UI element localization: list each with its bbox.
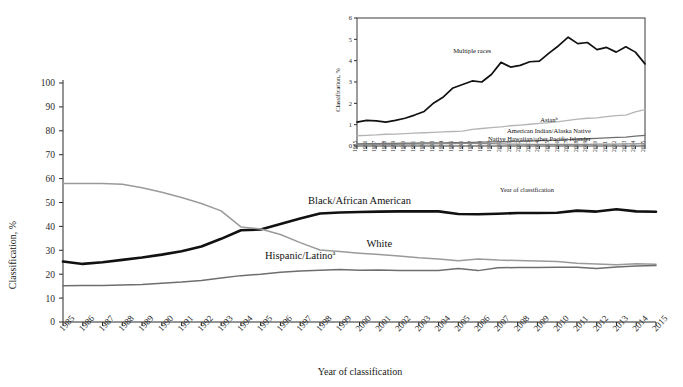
y-tick-label: 70 xyxy=(46,150,56,160)
x-tick-label: 2002 xyxy=(393,313,412,333)
inset-series-line-asian xyxy=(357,110,645,136)
series-label-superscript: a xyxy=(333,249,336,256)
inset-series-labels: Multiple racesAsianbAmerican Indian/Alas… xyxy=(453,47,591,142)
y-tick-label: 20 xyxy=(46,270,56,280)
series-label-white: White xyxy=(366,238,392,249)
x-tick-label: 2006 xyxy=(472,313,492,333)
x-tick-label: 2010 xyxy=(551,313,571,333)
inset-x-axis-title: Year of classification xyxy=(500,186,555,193)
x-tick-label: 2004 xyxy=(433,313,453,333)
inset-chart: 0123456 19851986198719881989199019911992… xyxy=(332,2,680,198)
inset-series-label-american-indian-alaska-native: American Indian/Alaska Native xyxy=(507,127,591,134)
inset-series-lines xyxy=(357,37,645,145)
inset-y-tick-label: 1 xyxy=(349,121,352,128)
x-tick-label: 2009 xyxy=(531,313,551,333)
y-tick-label: 10 xyxy=(46,294,56,304)
y-tick-label: 100 xyxy=(41,78,56,88)
x-tick-label: 2000 xyxy=(354,313,374,333)
x-tick-label: 2013 xyxy=(611,313,631,333)
x-tick-label: 1986 xyxy=(77,313,97,333)
x-tick-label: 2011 xyxy=(571,314,590,334)
x-tick-label: 1998 xyxy=(314,313,334,333)
x-tick-label: 1985 xyxy=(57,313,77,333)
x-tick-label: 2003 xyxy=(413,313,433,333)
main-x-axis-title: Year of classification xyxy=(318,366,403,377)
inset-y-tick-label: 2 xyxy=(349,100,352,107)
x-tick-label: 1988 xyxy=(116,313,136,333)
x-tick-label: 1990 xyxy=(156,313,176,333)
x-tick-label: 1987 xyxy=(97,313,117,333)
inset-y-axis-ticks: 0123456 xyxy=(349,14,357,149)
inset-y-tick-label: 5 xyxy=(349,36,352,43)
x-tick-label: 1999 xyxy=(334,313,354,333)
x-tick-label: 1993 xyxy=(215,313,235,333)
main-x-axis-ticks: 1985198619871988198919901991199219931994… xyxy=(57,313,670,333)
inset-chart-svg: 0123456 19851986198719881989199019911992… xyxy=(332,2,680,198)
x-tick-label: 1994 xyxy=(235,313,255,333)
series-line-black-african-american xyxy=(63,209,656,264)
y-tick-label: 40 xyxy=(46,222,56,232)
x-tick-label: 1989 xyxy=(136,313,156,333)
x-tick-label: 1992 xyxy=(195,313,214,333)
x-tick-label: 1995 xyxy=(255,313,275,333)
inset-y-tick-label: 6 xyxy=(349,14,353,21)
x-tick-label: 2014 xyxy=(630,313,650,333)
inset-series-line-multiple-races xyxy=(357,37,645,122)
y-tick-label: 90 xyxy=(46,102,56,112)
x-tick-label: 2015 xyxy=(650,313,670,333)
y-tick-label: 80 xyxy=(46,126,56,136)
inset-y-tick-label: 3 xyxy=(349,78,352,85)
figure-root: 0102030405060708090100 19851986198719881… xyxy=(0,0,683,387)
inset-series-label-native-hawaiian-other-pacific-islander: Native Hawaiian/other Pacific Islander xyxy=(488,135,592,142)
inset-y-tick-label: 4 xyxy=(349,57,353,64)
y-tick-label: 30 xyxy=(46,246,56,256)
x-tick-label: 2008 xyxy=(512,313,532,333)
y-tick-label: 50 xyxy=(46,198,56,208)
x-tick-label: 1991 xyxy=(176,313,195,333)
series-line-hispanic-latino xyxy=(63,266,656,286)
x-tick-label: 2005 xyxy=(452,313,472,333)
y-tick-label: 0 xyxy=(50,317,55,327)
inset-series-label-multiple-races: Multiple races xyxy=(453,47,491,54)
x-tick-label: 2012 xyxy=(591,313,610,333)
main-y-axis-title: Classification, % xyxy=(7,221,18,289)
x-tick-label: 1997 xyxy=(294,313,314,333)
main-y-axis-ticks: 0102030405060708090100 xyxy=(41,78,63,327)
inset-series-label-superscript: b xyxy=(556,116,559,121)
x-tick-label: 2001 xyxy=(373,313,392,333)
y-tick-label: 60 xyxy=(46,174,56,184)
x-tick-label: 2007 xyxy=(492,313,512,333)
inset-y-axis-title: Classification, % xyxy=(334,67,341,111)
x-tick-label: 1996 xyxy=(274,313,294,333)
series-label-hispanic-latino: Hispanic/Latinoa xyxy=(265,249,336,260)
